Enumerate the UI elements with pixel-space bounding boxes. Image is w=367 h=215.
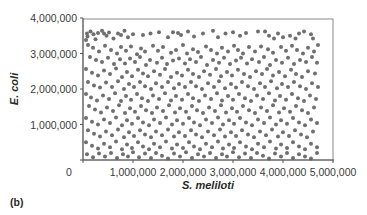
data-point xyxy=(169,98,173,102)
data-point xyxy=(169,75,173,79)
data-point xyxy=(300,75,304,79)
data-point xyxy=(223,135,227,139)
data-point xyxy=(135,52,139,56)
data-point xyxy=(230,106,234,110)
data-point xyxy=(271,103,275,107)
data-point xyxy=(130,74,134,78)
data-point xyxy=(131,150,135,154)
data-point xyxy=(184,110,188,114)
y-tick-label: 4,000,000 xyxy=(30,12,77,24)
data-point xyxy=(273,152,277,156)
data-point xyxy=(147,123,151,127)
data-point xyxy=(311,130,315,134)
y-tick-label: 2,000,000 xyxy=(30,83,77,95)
data-point xyxy=(126,35,130,39)
data-point xyxy=(215,91,219,95)
data-point xyxy=(113,91,117,95)
data-point xyxy=(316,85,320,89)
data-point xyxy=(86,35,90,39)
data-point xyxy=(289,68,293,72)
data-point xyxy=(271,74,275,78)
data-point xyxy=(234,59,238,63)
data-point xyxy=(291,116,295,120)
data-point xyxy=(227,118,231,122)
data-point xyxy=(110,85,114,89)
data-point xyxy=(223,86,227,90)
data-point xyxy=(108,121,112,125)
y-axis-title: E. coli xyxy=(8,72,20,105)
data-point xyxy=(112,62,116,66)
data-point xyxy=(91,155,95,159)
data-point xyxy=(98,86,102,90)
data-point xyxy=(258,130,262,134)
data-point xyxy=(241,52,245,56)
data-point xyxy=(243,96,247,100)
data-point xyxy=(114,66,118,70)
data-point xyxy=(216,140,220,144)
data-point xyxy=(205,63,209,67)
data-point xyxy=(120,75,124,79)
data-point xyxy=(125,118,129,122)
data-point xyxy=(152,69,156,73)
data-point xyxy=(253,111,257,115)
data-point xyxy=(143,132,147,136)
data-point xyxy=(266,47,270,51)
data-point xyxy=(144,63,148,67)
data-point xyxy=(250,147,254,151)
data-point xyxy=(186,92,190,96)
data-point xyxy=(210,121,214,125)
data-point xyxy=(177,82,181,86)
x-tick-label: 0 xyxy=(66,166,72,178)
data-point xyxy=(189,128,193,132)
data-point xyxy=(310,81,314,85)
data-point xyxy=(247,45,251,49)
data-point xyxy=(308,93,312,97)
data-point xyxy=(272,37,276,41)
data-point xyxy=(90,71,94,75)
data-point xyxy=(96,123,100,127)
data-point xyxy=(281,130,285,134)
data-point xyxy=(122,87,126,91)
data-point xyxy=(219,74,223,78)
data-point xyxy=(112,37,116,41)
x-tick-label: 2,000,000 xyxy=(160,166,207,178)
data-point xyxy=(194,132,198,136)
data-point xyxy=(213,109,217,113)
data-point xyxy=(94,37,98,41)
data-point xyxy=(240,80,244,84)
data-point xyxy=(157,97,161,101)
data-point xyxy=(190,104,194,108)
data-point xyxy=(143,152,147,156)
data-point xyxy=(216,115,220,119)
data-point xyxy=(268,115,272,119)
data-point xyxy=(149,87,153,91)
data-point xyxy=(172,135,176,139)
data-point xyxy=(262,145,266,149)
data-point xyxy=(254,69,258,73)
data-point xyxy=(119,33,123,37)
data-point xyxy=(228,62,232,66)
data-point xyxy=(86,80,90,84)
data-point xyxy=(104,81,108,85)
data-point xyxy=(267,34,271,38)
data-point xyxy=(155,106,159,110)
data-point xyxy=(181,122,185,126)
data-point xyxy=(163,91,167,95)
data-point xyxy=(273,98,277,102)
data-point xyxy=(191,47,195,51)
data-point xyxy=(220,46,224,50)
data-point xyxy=(292,62,296,66)
data-point xyxy=(311,37,315,41)
data-point xyxy=(87,104,91,108)
data-point xyxy=(236,68,240,72)
data-point xyxy=(267,91,271,95)
data-point xyxy=(136,140,140,144)
data-point xyxy=(165,62,169,66)
data-point xyxy=(291,156,295,160)
data-point xyxy=(141,71,145,75)
data-point xyxy=(315,151,319,155)
data-point xyxy=(241,104,245,108)
data-point xyxy=(96,147,100,151)
data-point xyxy=(116,128,120,132)
data-point xyxy=(133,110,137,114)
